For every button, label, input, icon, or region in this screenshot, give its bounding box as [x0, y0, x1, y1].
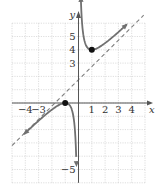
curve-right-branch [81, 0, 127, 50]
y-tick-label: 3 [69, 58, 75, 69]
x-tick-label: 1 [89, 104, 95, 115]
x-tick-label: 3 [115, 104, 121, 115]
y-axis-arrow-icon [76, 11, 81, 18]
x-axis-label: x [149, 104, 155, 115]
y-tick-label: 5 [69, 31, 75, 42]
x-tick-label: 4 [129, 104, 135, 115]
x-tick-labels: −4−31234 [18, 104, 135, 115]
y-tick-label: 4 [69, 44, 75, 55]
y-axis-label: y [69, 9, 76, 20]
x-tick-label: 2 [102, 104, 108, 115]
y-tick-label: −5 [61, 164, 76, 175]
x-tick-label: −3 [31, 104, 46, 115]
graph: x y −4−31234 543−5 [0, 0, 165, 188]
